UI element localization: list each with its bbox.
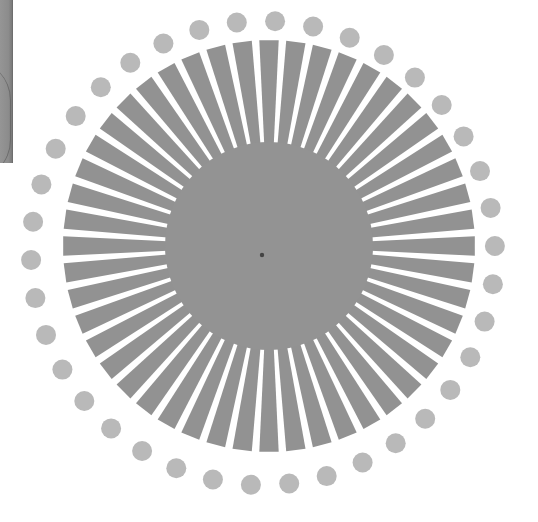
ring-dot <box>481 198 501 218</box>
ring-dot <box>265 11 285 31</box>
ring-dot <box>386 433 406 453</box>
ring-dot <box>470 161 490 181</box>
ring-dot <box>153 34 173 54</box>
ring-dot <box>353 453 373 473</box>
ring-dot <box>440 380 460 400</box>
center-dot <box>260 253 264 257</box>
ring-dot <box>241 475 261 495</box>
ring-dot <box>166 458 186 478</box>
ring-dot <box>74 391 94 411</box>
ring-dot <box>52 360 72 380</box>
ring-dot <box>23 212 43 232</box>
ring-dot <box>36 325 56 345</box>
ring-dot <box>340 28 360 48</box>
ring-dot <box>415 409 435 429</box>
ring-dot <box>120 53 140 73</box>
ring-dot <box>374 45 394 65</box>
starburst-graphic <box>0 0 538 522</box>
ring-dot <box>227 13 247 33</box>
ring-dot <box>485 236 505 256</box>
ring-dot <box>303 17 323 37</box>
ring-dot <box>483 274 503 294</box>
ring-dot <box>66 106 86 126</box>
ring-dot <box>91 77 111 97</box>
ring-dot <box>454 126 474 146</box>
ring-dot <box>25 288 45 308</box>
ring-dot <box>46 139 66 159</box>
ring-dot <box>405 68 425 88</box>
ring-dot <box>279 474 299 494</box>
ring-dot <box>101 418 121 438</box>
starburst-core <box>165 142 373 350</box>
ring-dot <box>21 250 41 270</box>
ring-dot <box>317 466 337 486</box>
ring-dot <box>203 470 223 490</box>
ring-dot <box>432 95 452 115</box>
ring-dot <box>189 20 209 40</box>
ring-dot <box>132 441 152 461</box>
ring-dot <box>475 312 495 332</box>
ring-dot <box>31 174 51 194</box>
ring-dot <box>460 347 480 367</box>
